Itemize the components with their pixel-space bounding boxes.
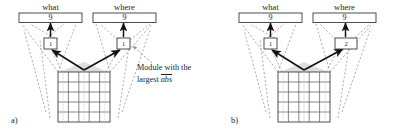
panel-label-b: b) [231, 116, 238, 125]
output-caption-what: what [239, 3, 302, 12]
output-value-where: 9 [93, 14, 156, 22]
module-value-left: 1 [264, 41, 277, 48]
output-value-what: 9 [19, 14, 82, 22]
figure-root: what 9 where 9 1 1 Module with the large… [0, 0, 411, 136]
annotation-text: Module with the largest abs [137, 63, 191, 85]
grid-apex-shade [60, 62, 108, 72]
module-to-output-arrows [271, 23, 346, 37]
panel-label-a: a) [11, 116, 18, 125]
annotation-line-2-prefix: largest [137, 75, 161, 84]
output-caption-where: where [93, 3, 156, 12]
annotation-line-1: Module with the [137, 63, 191, 74]
annotation-line-2: largest abs [137, 74, 191, 86]
module-value-right: 2 [335, 41, 357, 48]
module-value-right: 1 [117, 41, 130, 48]
annotation-abs-overlined: abs [161, 74, 172, 84]
annotation-pointer [133, 46, 152, 63]
output-caption-what: what [19, 3, 82, 12]
module-to-output-arrows [51, 23, 124, 37]
panel-b: what 9 where 9 1 2 b) [206, 0, 411, 136]
output-value-where: 9 [313, 14, 376, 22]
module-grid [278, 72, 330, 122]
module-grid [58, 72, 110, 122]
module-value-left: 1 [44, 41, 57, 48]
grid-apex-shade [280, 62, 328, 72]
output-value-what: 9 [239, 14, 302, 22]
output-caption-where: where [313, 3, 376, 12]
panel-a: what 9 where 9 1 1 Module with the large… [0, 0, 205, 136]
